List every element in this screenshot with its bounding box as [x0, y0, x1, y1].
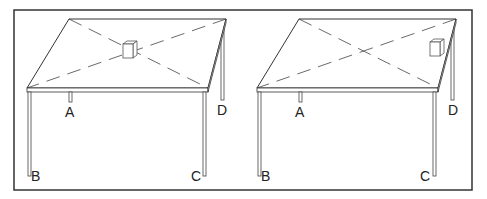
cube: [430, 39, 444, 56]
label-b: B: [31, 168, 40, 184]
cube: [123, 41, 137, 58]
label-a: A: [295, 104, 305, 120]
tabletop-edge: [27, 88, 208, 92]
label-d: D: [448, 102, 458, 118]
label-d: D: [217, 102, 227, 118]
diagram-canvas: A B C D A B C D: [0, 0, 487, 199]
leg-a: [299, 92, 302, 102]
leg-b: [258, 92, 261, 176]
label-b: B: [261, 168, 270, 184]
leg-c: [203, 92, 206, 176]
label-c: C: [191, 168, 201, 184]
leg-a: [69, 92, 72, 102]
tabletop-edge: [257, 88, 438, 92]
label-a: A: [65, 104, 75, 120]
leg-b: [28, 92, 31, 176]
leg-c: [433, 92, 436, 176]
label-c: C: [420, 168, 430, 184]
table-left: A B C D: [27, 19, 227, 184]
table-right: A B C D: [257, 19, 458, 184]
